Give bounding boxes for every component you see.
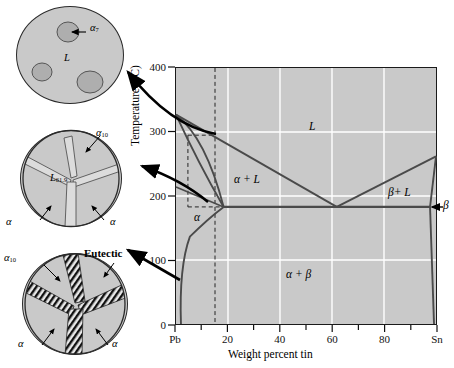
y-axis-label: Temperature (°C)	[129, 65, 141, 146]
x-axis-label: Weight percent tin	[228, 348, 313, 360]
inset-middle-alpha-right: α	[110, 216, 116, 227]
inset-middle-alpha-left: α	[6, 216, 12, 227]
inset-middle-alpha-subscript: 10	[102, 131, 109, 138]
x-tick-pb: Pb	[160, 333, 190, 345]
x-tick-60: 60	[317, 333, 347, 345]
inset-bottom-grain-label: α10	[4, 252, 16, 263]
y-tick-100: 100	[136, 254, 166, 266]
inset-middle-grain-label: α10	[96, 127, 108, 138]
inset-top-liquid-label: L	[64, 52, 70, 63]
inset-bottom-eutectic-label: Eutectic	[84, 247, 122, 259]
x-tick-80: 80	[370, 333, 400, 345]
x-tick-sn: Sn	[422, 333, 452, 345]
y-tick-200: 200	[136, 190, 166, 202]
inset-bottom-alpha-left: α	[18, 338, 24, 349]
inset-top-circle	[16, 6, 124, 104]
inset-middle-liquid-label: L61.9	[50, 172, 67, 183]
inset-bottom-alpha-subscript: 10	[10, 256, 17, 263]
y-tick-0: 0	[136, 319, 166, 331]
x-tick-40: 40	[265, 333, 295, 345]
region-label-beta: β	[443, 199, 449, 211]
inset-middle-circle	[20, 130, 122, 227]
region-label-liquid: L	[309, 120, 315, 132]
region-label-alpha: α	[194, 211, 200, 223]
inset-top-alpha-subscript: 7	[96, 26, 99, 33]
region-label-alpha-plus-l: α + L	[234, 173, 260, 185]
phase-diagram-plot-area: L α + L β+ L α α + β	[175, 67, 437, 325]
region-label-beta-plus-l: β+ L	[388, 186, 411, 198]
x-tick-20: 20	[212, 333, 242, 345]
inset-top-particle-label: α7	[90, 22, 99, 33]
inset-middle-l-subscript: 61.9	[56, 176, 67, 183]
region-label-alpha-plus-beta: α + β	[286, 268, 311, 280]
alpha-region-edge	[176, 187, 224, 207]
inset-bottom-alpha-right: α	[112, 338, 118, 349]
figure-root: L α + L β+ L α α + β β	[0, 0, 454, 368]
